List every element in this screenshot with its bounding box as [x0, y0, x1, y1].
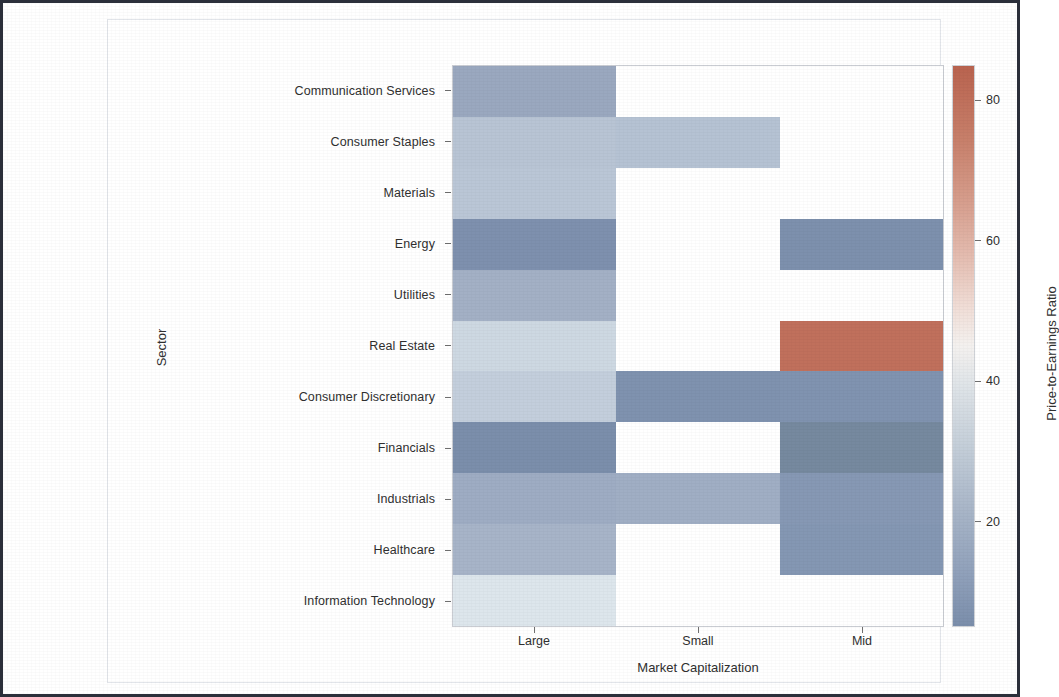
- y-axis-tick-marks: [445, 65, 452, 627]
- colorbar-tick-labels: 20406080: [975, 65, 1021, 627]
- x-axis-title: Market Capitalization: [452, 660, 944, 675]
- y-axis-tick-mark: [445, 576, 452, 627]
- y-axis-tick-labels: Communication ServicesConsumer StaplesMa…: [212, 65, 444, 627]
- y-axis-tick-label: Materials: [212, 167, 444, 218]
- heatmap-cell: [453, 66, 616, 117]
- colorbar-tick: 60: [975, 234, 1000, 248]
- heatmap-grid: [453, 66, 943, 626]
- heatmap-cell: [780, 422, 943, 473]
- y-axis-tick-mark: [445, 474, 452, 525]
- y-axis-tick-label: Information Technology: [212, 576, 444, 627]
- x-axis-tick-label: Mid: [780, 634, 944, 656]
- heatmap-cell: [780, 321, 943, 372]
- heatmap-cell: [453, 168, 616, 219]
- heatmap-cell: [616, 321, 779, 372]
- x-axis-tick-marks: [452, 627, 944, 634]
- x-axis-tick-label: Large: [452, 634, 616, 656]
- heatmap-cell: [780, 371, 943, 422]
- y-axis-tick-label: Energy: [212, 218, 444, 269]
- heatmap-cell: [453, 321, 616, 372]
- heatmap-cell: [453, 219, 616, 270]
- heatmap-cell: [453, 422, 616, 473]
- y-axis-tick-label: Consumer Discretionary: [212, 372, 444, 423]
- colorbar-tick: 40: [975, 374, 1000, 388]
- colorbar-gradient: [952, 65, 975, 627]
- heatmap-cell: [616, 422, 779, 473]
- colorbar-tick-label: 80: [986, 93, 1000, 107]
- y-axis-tick-mark: [445, 320, 452, 371]
- colorbar-title: Price-to-Earnings Ratio: [1044, 254, 1059, 454]
- heatmap-cell: [616, 117, 779, 168]
- y-axis-tick-mark: [445, 116, 452, 167]
- heatmap-cell: [616, 270, 779, 321]
- y-axis-tick-mark: [445, 65, 452, 116]
- colorbar-tick: 80: [975, 93, 1000, 107]
- heatmap-cell: [616, 524, 779, 575]
- figure-frame: Sector Communication ServicesConsumer St…: [107, 19, 941, 683]
- heatmap-cell: [453, 371, 616, 422]
- y-axis-tick-mark: [445, 423, 452, 474]
- y-axis-title: Sector: [154, 288, 169, 408]
- y-axis-tick-mark: [445, 372, 452, 423]
- x-axis-tick-mark: [780, 627, 944, 634]
- y-axis-tick-label: Healthcare: [212, 525, 444, 576]
- y-axis-tick-label: Financials: [212, 423, 444, 474]
- y-axis-tick-mark: [445, 269, 452, 320]
- heatmap-cell: [453, 575, 616, 626]
- heatmap-cell: [616, 473, 779, 524]
- y-axis-tick-mark: [445, 525, 452, 576]
- heatmap-cell: [616, 575, 779, 626]
- heatmap-plot-area: [452, 65, 944, 627]
- heatmap-cell: [453, 473, 616, 524]
- y-axis-tick-mark: [445, 167, 452, 218]
- x-axis-tick-label: Small: [616, 634, 780, 656]
- y-axis-tick-mark: [445, 218, 452, 269]
- heatmap-cell: [453, 524, 616, 575]
- heatmap-cell: [616, 66, 779, 117]
- heatmap-cell: [780, 66, 943, 117]
- y-axis-tick-label: Industrials: [212, 474, 444, 525]
- colorbar-tick-label: 40: [986, 374, 1000, 388]
- x-axis-tick-labels: LargeSmallMid: [452, 634, 944, 656]
- y-axis-tick-label: Consumer Staples: [212, 116, 444, 167]
- colorbar-tick-label: 20: [986, 515, 1000, 529]
- heatmap-cell: [616, 219, 779, 270]
- y-axis-tick-label: Communication Services: [212, 65, 444, 116]
- heatmap-cell: [780, 473, 943, 524]
- heatmap-cell: [453, 270, 616, 321]
- heatmap-cell: [780, 117, 943, 168]
- heatmap-cell: [780, 524, 943, 575]
- colorbar-tick: 20: [975, 515, 1000, 529]
- y-axis-tick-label: Real Estate: [212, 320, 444, 371]
- heatmap-cell: [780, 270, 943, 321]
- y-axis-tick-label: Utilities: [212, 269, 444, 320]
- heatmap-cell: [616, 371, 779, 422]
- colorbar-tick-label: 60: [986, 234, 1000, 248]
- heatmap-cell: [780, 575, 943, 626]
- x-axis-tick-mark: [616, 627, 780, 634]
- heatmap-cell: [453, 117, 616, 168]
- heatmap-cell: [780, 219, 943, 270]
- x-axis-tick-mark: [452, 627, 616, 634]
- heatmap-cell: [780, 168, 943, 219]
- heatmap-cell: [616, 168, 779, 219]
